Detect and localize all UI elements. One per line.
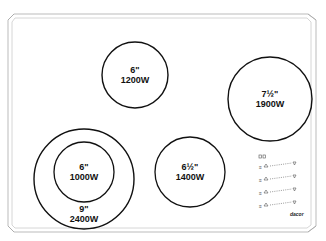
svg-text:≡: ≡: [259, 177, 262, 183]
control-panel: ≡ ≡ ≡ ≡: [259, 155, 296, 209]
burner-power: 1200W: [121, 75, 150, 85]
burner-power: 1900W: [256, 99, 285, 109]
control-row-3: ≡: [259, 188, 296, 196]
svg-text:≡: ≡: [259, 203, 262, 209]
burner-left-front-inner-label: 6" 1000W: [70, 162, 99, 182]
burner-size: 9": [70, 204, 99, 214]
cooktop-diagram: ≡ ≡ ≡ ≡: [0, 0, 326, 241]
svg-text:≡: ≡: [259, 164, 262, 170]
burner-size: 6½": [176, 162, 205, 172]
cooktop-outline: ≡ ≡ ≡ ≡: [0, 0, 326, 241]
burner-power: 1400W: [176, 172, 205, 182]
burner-right-rear-label: 7½" 1900W: [256, 89, 285, 109]
control-row-1: ≡: [259, 162, 296, 170]
burner-size: 7½": [256, 89, 285, 99]
burner-power: 2400W: [70, 214, 99, 224]
burner-size: 6": [121, 65, 150, 75]
control-row-2: ≡: [259, 175, 296, 183]
control-row-4: ≡: [259, 201, 296, 209]
burner-left-front-outer-label: 9" 2400W: [70, 204, 99, 224]
burner-left-rear-label: 6" 1200W: [121, 65, 150, 85]
burner-right-front-label: 6½" 1400W: [176, 162, 205, 182]
brand-logo: dacor: [290, 211, 304, 217]
burner-size: 6": [70, 162, 99, 172]
burner-power: 1000W: [70, 172, 99, 182]
top-indicator-icon: [259, 155, 266, 158]
svg-text:≡: ≡: [259, 190, 262, 196]
